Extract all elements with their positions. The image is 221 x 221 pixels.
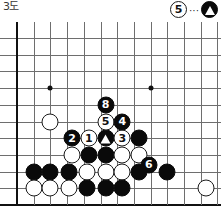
move-number: 4 bbox=[118, 116, 126, 127]
triangle-icon bbox=[101, 134, 111, 143]
grid-line-vertical bbox=[16, 22, 18, 205]
triangle-icon bbox=[205, 6, 215, 15]
go-board[interactable]: 2135486 bbox=[0, 22, 221, 221]
white-stone bbox=[25, 180, 42, 197]
black-stone bbox=[42, 163, 59, 180]
black-stone bbox=[130, 163, 147, 180]
move-number: 8 bbox=[102, 99, 110, 110]
white-stone bbox=[114, 163, 131, 180]
caption-white-stone-5: 5 bbox=[170, 1, 187, 18]
diagram-caption: 5 ··· bbox=[170, 1, 218, 18]
white-stone bbox=[97, 163, 114, 180]
caption-equals-dots: ··· bbox=[189, 6, 199, 16]
black-stone bbox=[97, 146, 114, 163]
black-stone bbox=[130, 130, 147, 147]
grid-line-vertical bbox=[151, 22, 152, 205]
white-stone bbox=[42, 113, 59, 130]
white-stone bbox=[42, 180, 59, 197]
grid-line-vertical bbox=[201, 22, 202, 205]
black-stone-triangle-marker bbox=[97, 130, 114, 147]
white-stone-move-3: 3 bbox=[114, 130, 131, 147]
grid-line-vertical bbox=[184, 22, 185, 205]
black-stone bbox=[159, 163, 176, 180]
white-stone bbox=[64, 146, 81, 163]
black-stone bbox=[114, 180, 131, 197]
figure-label: 3도 bbox=[3, 1, 19, 13]
black-stone bbox=[25, 163, 42, 180]
grid-line-vertical bbox=[217, 22, 218, 205]
black-stone bbox=[80, 146, 97, 163]
go-diagram: 3도 5 ··· 2135486 bbox=[0, 0, 221, 221]
black-stone bbox=[97, 180, 114, 197]
caption-white-move-number: 5 bbox=[175, 4, 183, 15]
move-number: 1 bbox=[85, 132, 93, 143]
white-stone bbox=[60, 180, 77, 197]
black-stone-move-4: 4 bbox=[114, 113, 131, 130]
star-point bbox=[48, 86, 53, 91]
star-point bbox=[148, 86, 153, 91]
black-stone-move-8: 8 bbox=[97, 96, 114, 113]
black-stone bbox=[60, 163, 77, 180]
move-number: 2 bbox=[68, 132, 76, 143]
move-number: 3 bbox=[118, 132, 126, 143]
white-stone-move-1: 1 bbox=[80, 130, 97, 147]
white-stone-move-5: 5 bbox=[97, 113, 114, 130]
move-number: 5 bbox=[102, 116, 110, 127]
white-stone bbox=[114, 146, 131, 163]
caption-black-triangle-stone bbox=[201, 1, 218, 18]
white-stone bbox=[197, 180, 214, 197]
black-stone bbox=[79, 180, 96, 197]
black-stone-move-2: 2 bbox=[64, 130, 81, 147]
white-stone bbox=[79, 163, 96, 180]
